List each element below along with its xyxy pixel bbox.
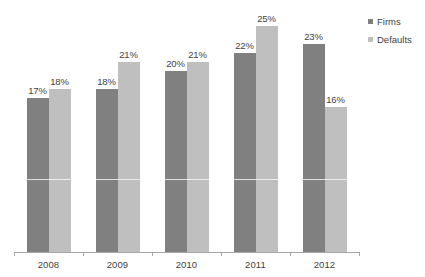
bar-group: 20%21% <box>165 8 209 252</box>
x-axis-tick <box>290 252 291 256</box>
x-axis-tick <box>221 252 222 256</box>
x-axis-category-labels: 20082009201020112012 <box>14 259 359 275</box>
bar-rect[interactable] <box>303 44 325 252</box>
plot-area: 17%18%18%21%20%21%22%25%23%16% <box>14 8 359 252</box>
bar-value-label: 21% <box>109 49 149 60</box>
bar-firms-2008[interactable]: 17% <box>27 8 49 252</box>
bar-defaults-2010[interactable]: 21% <box>187 8 209 252</box>
bar-rect[interactable] <box>256 26 278 252</box>
chart-legend: Firms Defaults <box>368 16 412 45</box>
bar-rect[interactable] <box>325 107 347 252</box>
bar-defaults-2011[interactable]: 25% <box>256 8 278 252</box>
legend-item-defaults[interactable]: Defaults <box>368 34 412 45</box>
bar-group: 23%16% <box>303 8 347 252</box>
x-axis-line <box>14 252 359 253</box>
x-axis-label-2010: 2010 <box>157 259 217 270</box>
bar-groups: 17%18%18%21%20%21%22%25%23%16% <box>14 8 359 252</box>
x-axis-label-2009: 2009 <box>88 259 148 270</box>
x-axis-tick <box>359 252 360 256</box>
bar-value-label: 21% <box>178 49 218 60</box>
bar-rect[interactable] <box>96 89 118 252</box>
square-marker-icon <box>368 37 373 42</box>
bar-group: 18%21% <box>96 8 140 252</box>
x-axis-tick <box>83 252 84 256</box>
bar-defaults-2008[interactable]: 18% <box>49 8 71 252</box>
bar-defaults-2012[interactable]: 16% <box>325 8 347 252</box>
bar-rect[interactable] <box>49 89 71 252</box>
x-axis-label-2012: 2012 <box>295 259 355 270</box>
x-axis-tick <box>14 252 15 256</box>
bar-rect[interactable] <box>27 98 49 252</box>
bar-rect[interactable] <box>234 53 256 252</box>
bar-group: 17%18% <box>27 8 71 252</box>
bar-rect[interactable] <box>118 62 140 252</box>
bar-firms-2011[interactable]: 22% <box>234 8 256 252</box>
bar-value-label: 16% <box>316 94 356 105</box>
bar-firms-2012[interactable]: 23% <box>303 8 325 252</box>
bar-rect[interactable] <box>187 62 209 252</box>
x-axis-label-2011: 2011 <box>226 259 286 270</box>
bar-group: 22%25% <box>234 8 278 252</box>
legend-label-defaults: Defaults <box>377 34 412 45</box>
bar-rect[interactable] <box>165 71 187 252</box>
square-marker-icon <box>368 19 373 24</box>
legend-label-firms: Firms <box>377 16 401 27</box>
bar-chart: 17%18%18%21%20%21%22%25%23%16% 200820092… <box>0 0 425 277</box>
x-axis-tick <box>152 252 153 256</box>
legend-item-firms[interactable]: Firms <box>368 16 412 27</box>
bar-firms-2010[interactable]: 20% <box>165 8 187 252</box>
x-axis-label-2008: 2008 <box>19 259 79 270</box>
bar-firms-2009[interactable]: 18% <box>96 8 118 252</box>
bar-value-label: 25% <box>247 13 287 24</box>
bar-value-label: 18% <box>40 76 80 87</box>
bar-defaults-2009[interactable]: 21% <box>118 8 140 252</box>
